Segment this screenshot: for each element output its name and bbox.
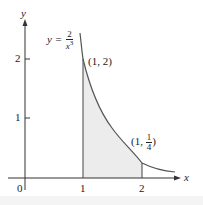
y-axis-arrow-icon	[23, 19, 28, 26]
x-tick-label-2: 2	[139, 183, 145, 194]
y-tick-label-2: 2	[15, 53, 21, 64]
function-denominator: x3	[65, 40, 75, 51]
x-axis-label: x	[184, 172, 189, 183]
shaded-area	[83, 59, 142, 178]
annotation-point-quarter: (1, 1 4 )	[131, 133, 156, 152]
bottom-margin	[0, 196, 203, 205]
x-axis-arrow-icon	[174, 176, 181, 181]
x-tick-label-1: 1	[80, 183, 86, 194]
function-fraction: 2 x3	[65, 30, 75, 51]
plot-area	[0, 0, 203, 205]
y-tick-label-1: 1	[15, 112, 21, 123]
function-label: y = 2 x3	[47, 30, 74, 51]
function-lhs: y =	[47, 33, 62, 45]
x-tick-label-0: 0	[17, 183, 23, 194]
annotation-point-1-2: (1, 2)	[88, 56, 112, 67]
y-axis-label: y	[21, 8, 26, 19]
